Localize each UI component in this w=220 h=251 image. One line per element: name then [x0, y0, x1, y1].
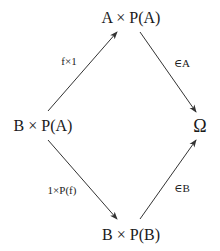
arrow-left-to-bottom: [48, 140, 117, 219]
node-left: B × P(A): [14, 118, 73, 134]
arrow-label-1-times-pf: 1×P(f): [48, 185, 77, 196]
arrow-label-text: 1×P(f): [48, 184, 77, 196]
arrow-label-epsilon-a: ∈A: [174, 58, 190, 69]
node-bottom: B × P(B): [102, 227, 160, 243]
arrow-label-text: ∈A: [174, 57, 190, 69]
node-right-omega: Ω: [193, 117, 206, 135]
commutative-diagram: A × P(A) B × P(A) Ω B × P(B) f×1 ∈A 1×P(…: [0, 0, 220, 251]
node-top-label: A × P(A): [102, 9, 161, 26]
arrow-label-epsilon-b: ∈B: [174, 183, 189, 194]
arrow-label-text: f×1: [61, 55, 76, 67]
arrow-label-text: ∈B: [174, 182, 189, 194]
node-right-label: Ω: [193, 116, 206, 136]
arrow-bottom-to-right: [140, 140, 196, 219]
arrow-left-to-top: [48, 32, 117, 111]
node-left-label: B × P(A): [14, 117, 73, 134]
arrow-label-f-times-1: f×1: [61, 56, 76, 67]
arrow-top-to-right: [140, 32, 196, 112]
node-top: A × P(A): [102, 10, 161, 26]
node-bottom-label: B × P(B): [102, 226, 160, 243]
